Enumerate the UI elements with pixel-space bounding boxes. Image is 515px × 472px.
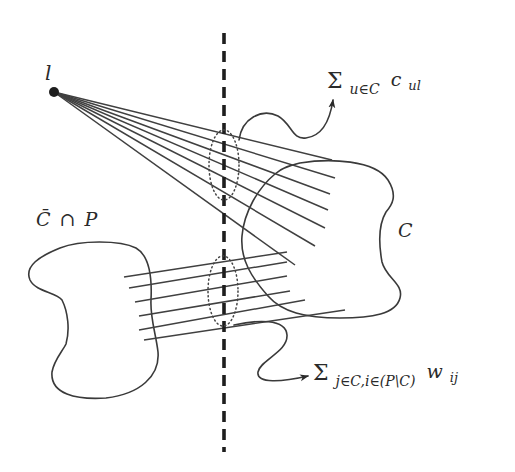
fan-edges-from-l	[54, 92, 335, 265]
bottom-sum-label: Σ j∈C,i∈(P\C) w ij	[313, 358, 458, 391]
cluster-c-label: C	[398, 219, 413, 241]
bottom-annotation-arrow	[234, 321, 308, 380]
inter-cluster-edges	[124, 252, 345, 340]
point-l-dot	[49, 87, 59, 97]
sum-term: c	[391, 68, 402, 90]
top-sum-label: Σ u∈C c ul	[327, 66, 421, 99]
top-annotation-arrow	[239, 100, 333, 140]
cluster-complement-label: C̄ ∩ P	[36, 208, 99, 230]
sigma-symbol: Σ	[313, 360, 329, 385]
sum-term-subscript: ij	[450, 370, 458, 385]
intersection-symbol: ∩	[60, 208, 76, 230]
sum-subscript: u∈C	[350, 81, 380, 97]
sigma-symbol: Σ	[327, 68, 343, 93]
graph-cut-diagram: l C C̄ ∩ P Σ u∈C c ul Σ j∈C,i∈(P\C) w ij	[0, 0, 515, 472]
point-l-label: l	[45, 61, 51, 85]
cluster-complement-blob	[29, 242, 158, 398]
c-bar-symbol: C̄	[36, 208, 51, 230]
p-symbol: P	[84, 208, 99, 230]
sum-term: w	[427, 360, 443, 382]
sum-term-subscript: ul	[408, 78, 421, 93]
sum-subscript: j∈C,i∈(P\C)	[333, 373, 416, 389]
